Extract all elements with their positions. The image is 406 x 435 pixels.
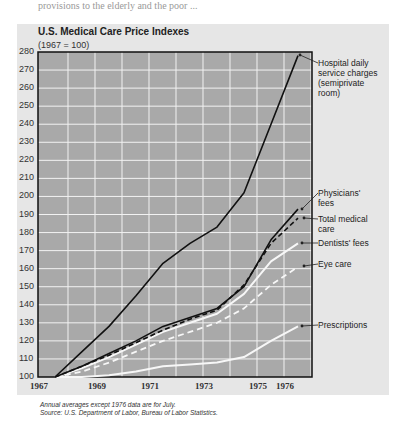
- y-tick-label: 220: [19, 154, 39, 164]
- label-prescriptions: Prescriptions: [318, 320, 367, 330]
- y-tick-label: 250: [19, 100, 39, 110]
- y-tick-label: 200: [19, 190, 39, 200]
- y-tick-label: 240: [19, 118, 39, 128]
- y-tick-label: 210: [19, 172, 39, 182]
- y-tick-label: 130: [19, 317, 39, 327]
- x-tick-label: 1975: [249, 381, 267, 391]
- y-tick-label: 180: [19, 227, 39, 237]
- label-total: Total medical care: [318, 214, 368, 234]
- label-line: (semiprivate: [318, 78, 378, 88]
- label-line: Total medical: [318, 214, 368, 224]
- label-line: care: [318, 224, 368, 234]
- x-tick-label: 1973: [195, 381, 213, 391]
- arrow-head-icon: [303, 217, 306, 220]
- label-line: fees: [318, 198, 360, 208]
- chart-note: Annual averages except 1976 data are for…: [40, 401, 176, 408]
- y-tick-label: 190: [19, 209, 39, 219]
- label-line: Prescriptions: [318, 320, 367, 330]
- x-tick-label: 1976: [276, 381, 294, 391]
- label-line: Eye care: [318, 259, 352, 269]
- label-line: Hospital daily: [318, 58, 378, 68]
- x-tick-label: 1969: [88, 381, 106, 391]
- y-tick-label: 110: [19, 353, 39, 363]
- label-dentists: Dentists' fees: [318, 238, 369, 248]
- y-tick-label: 260: [19, 82, 39, 92]
- label-hospital: Hospital daily service charges (semipriv…: [318, 58, 378, 98]
- label-line: Dentists' fees: [318, 238, 369, 248]
- x-tick-label: 1971: [141, 381, 159, 391]
- y-tick-label: 140: [19, 299, 39, 309]
- label-line: room): [318, 88, 378, 98]
- label-eye-care: Eye care: [318, 259, 352, 269]
- chart-source: Source: U.S. Department of Labor, Bureau…: [40, 409, 218, 416]
- label-line: Physicians': [318, 188, 360, 198]
- x-tick-label: 1967: [30, 381, 48, 391]
- y-tick-label: 230: [19, 136, 39, 146]
- y-tick-label: 280: [19, 46, 39, 56]
- y-tick-label: 160: [19, 263, 39, 273]
- arrow-head-icon: [303, 265, 306, 268]
- arrow-head-icon: [301, 325, 304, 328]
- arrow-head-icon: [299, 54, 302, 57]
- arrow-head-icon: [301, 208, 304, 211]
- y-tick-label: 100: [19, 371, 39, 381]
- arrow-head-icon: [301, 242, 304, 245]
- label-line: service charges: [318, 68, 378, 78]
- label-physicians: Physicians' fees: [318, 188, 360, 208]
- y-tick-label: 120: [19, 335, 39, 345]
- y-tick-label: 150: [19, 281, 39, 291]
- y-tick-label: 270: [19, 64, 39, 74]
- y-tick-label: 170: [19, 245, 39, 255]
